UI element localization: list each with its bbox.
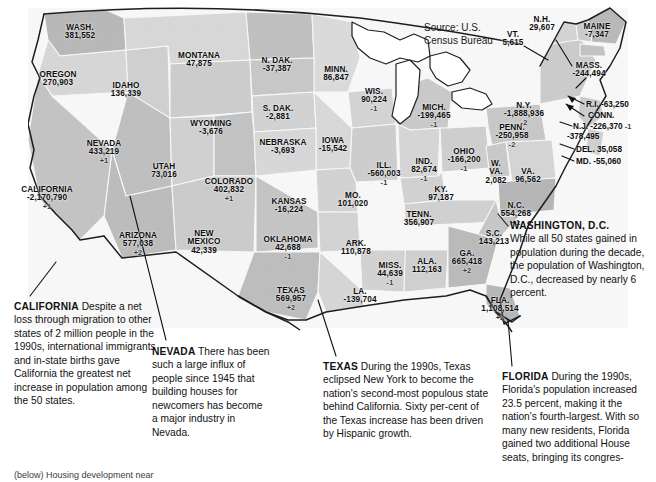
coastal-label-text-md: MD. -55,060 [576, 157, 621, 166]
state-value-la: -139,704 [343, 296, 376, 304]
state-label-oregon: OREGON270,903 [40, 71, 77, 88]
state-label-tenn: TENN.356,907 [404, 211, 434, 228]
callout-title-nevada: NEVADA [152, 346, 195, 357]
state-label-wash: WASH.381,552 [65, 24, 95, 41]
state-label-colorado: COLORADO402,832+1 [205, 178, 254, 202]
state-value-mo: 101,020 [338, 200, 368, 208]
coastal-label-text-conn-value: -378,495 [567, 132, 599, 141]
callout-california: CALIFORNIA Despite a net loss through mi… [14, 300, 162, 408]
state-label-california: CALIFORNIA-2,170,790+1 [21, 186, 72, 210]
coastal-label-ri: R.I. -63,250 [586, 101, 629, 110]
state-value-nh: 29,607 [529, 24, 555, 32]
state-label-ark: ARK.110,878 [341, 240, 371, 257]
state-label-idaho: IDAHO136,339 [111, 82, 141, 99]
state-seat-change-wis: -1 [361, 105, 387, 113]
state-label-penn: PENN.-250,958-2 [495, 124, 528, 148]
state-label-la: LA.-139,704 [343, 288, 376, 305]
state-label-vt: VT.5,615 [503, 31, 524, 48]
state-value-iowa: -15,542 [319, 145, 347, 153]
coastal-label-text-conn: CONN. [588, 111, 614, 120]
coastal-label-md: MD. -55,060 [576, 158, 621, 167]
state-label-ndak: N. DAK.-37,387 [261, 57, 292, 74]
state-name-newmexico: NEWMEXICO [188, 230, 221, 247]
callout-title-florida: FLORIDA [502, 371, 549, 382]
state-seat-change-penn: -2 [495, 141, 528, 149]
footer-caption: (below) Housing development near [14, 470, 344, 481]
state-label-newmexico: NEWMEXICO42,339 [188, 230, 221, 255]
state-label-texas: TEXAS569,957+2 [276, 287, 306, 311]
callout-body-florida: During the 1990s, Florida's population i… [502, 371, 639, 463]
state-value-idaho: 136,339 [111, 90, 141, 98]
state-label-wis: WIS.90,224-1 [361, 88, 387, 112]
state-label-kansas: KANSAS-16,224 [271, 198, 306, 215]
state-label-minn: MINN.86,847 [323, 66, 349, 83]
coastal-label-text-del: DEL. 35,058 [576, 145, 622, 154]
state-value-ala: 112,163 [412, 266, 442, 274]
callout-nevada: NEVADA There has been such a large influ… [152, 345, 270, 439]
state-value-sdak: -2,881 [263, 113, 294, 121]
coastal-seat-change-nj: -1 [623, 122, 632, 131]
callout-body-california: Despite a net loss through migration to … [14, 301, 156, 406]
state-label-ala: ALA.112,163 [412, 258, 442, 275]
state-seat-change-ga: +2 [452, 267, 482, 275]
state-seat-change-mich: -1 [417, 121, 450, 129]
state-label-maine: MAINE-7,347 [584, 23, 611, 40]
state-value-va: 96,562 [515, 176, 541, 184]
state-value-ky: 97,187 [428, 194, 454, 202]
state-seat-change-nevada: +1 [87, 157, 122, 165]
state-label-nevada: NEVADA433,219+1 [87, 140, 122, 164]
population-change-map-figure: Source: U.S. Census Bureau WASH.381,552O… [0, 0, 656, 482]
callout-florida: FLORIDA During the 1990s, Florida's popu… [502, 370, 644, 464]
coastal-label-text-nj: N.J. -226,370 [573, 122, 623, 131]
state-label-mo: MO.101,020 [338, 192, 368, 209]
state-label-fla: FLA.1,108,514+2 [481, 297, 518, 321]
state-value-wva: 2,082 [486, 177, 507, 185]
state-seat-change-ind: -1 [411, 175, 437, 183]
state-seat-change-miss: -1 [377, 279, 403, 287]
state-label-mass: MASS.-244,494 [572, 62, 605, 79]
state-value-ark: 110,878 [341, 248, 371, 256]
coastal-label-nj: N.J. -226,370 -1 [573, 123, 631, 132]
state-value-kansas: -16,224 [271, 206, 306, 214]
state-name-wva: W.VA. [486, 160, 507, 177]
state-label-va: VA.96,562 [515, 168, 541, 185]
state-value-nebraska: -3,693 [259, 147, 306, 155]
state-value-sc: 143,213 [479, 238, 509, 246]
callout-body-texas: During the 1990s, Texas eclipsed New Yor… [323, 361, 488, 439]
state-label-utah: UTAH73,016 [151, 163, 177, 180]
state-label-miss: MISS.44,639-1 [377, 262, 403, 286]
state-label-wyoming: WYOMING-3,676 [190, 120, 232, 137]
state-value-maine: -7,347 [584, 31, 611, 39]
state-value-ndak: -37,387 [261, 65, 292, 73]
state-value-vt: 5,615 [503, 39, 524, 47]
state-value-tenn: 356,907 [404, 219, 434, 227]
state-label-mich: MICH.-199,465-1 [417, 104, 450, 128]
state-seat-change-texas: +2 [276, 304, 306, 312]
state-value-oregon: 270,903 [40, 79, 77, 87]
state-seat-change-ohio: -1 [447, 165, 480, 173]
coastal-label-text-ri: R.I. -63,250 [586, 100, 629, 109]
state-label-oklahoma: OKLAHOMA42,688-1 [263, 236, 312, 260]
state-seat-change-ill: -1 [367, 179, 400, 187]
state-label-nebraska: NEBRASKA-3,693 [259, 139, 306, 156]
state-label-sdak: S. DAK.-2,881 [263, 105, 294, 122]
state-value-utah: 73,016 [151, 171, 177, 179]
state-value-minn: 86,847 [323, 74, 349, 82]
callout-title-texas: TEXAS [323, 361, 358, 372]
callout-texas: TEXAS During the 1990s, Texas eclipsed N… [323, 360, 491, 441]
callout-body-nevada: There has been such a large influx of pe… [152, 346, 269, 438]
state-label-iowa: IOWA-15,542 [319, 137, 347, 154]
state-label-ny: N.Y.-1,888,936-2 [504, 102, 544, 126]
callout-title-california: CALIFORNIA [14, 301, 79, 312]
coastal-label-conn-value: -378,495 [567, 133, 599, 142]
state-label-ind: IND.82,674-1 [411, 158, 437, 182]
callout-body-washington-dc: While all 50 states gained in population… [510, 233, 644, 298]
state-label-sc: S.C.143,213 [479, 230, 509, 247]
coastal-label-del: DEL. 35,058 [576, 146, 622, 155]
state-value-mass: -244,494 [572, 70, 605, 78]
callout-washington-dc: WASHINGTON, D.C.While all 50 states gain… [510, 219, 650, 300]
state-label-wva: W.VA.2,082 [486, 160, 507, 185]
state-seat-change-oklahoma: -1 [263, 253, 312, 261]
state-label-ohio: OHIO-166,200-1 [447, 148, 480, 172]
state-value-wyoming: -3,676 [190, 128, 232, 136]
